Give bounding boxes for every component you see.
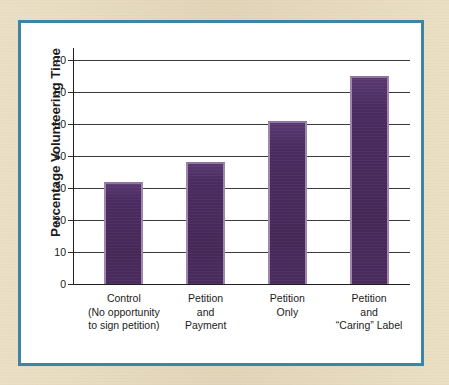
category-label-line: “Caring” Label — [328, 319, 410, 333]
x-axis-category-label: PetitionandPayment — [165, 292, 247, 333]
bar-chart: Percentage Volunteering Time 01020304050… — [21, 23, 427, 369]
category-label-line: Only — [247, 306, 329, 320]
category-label-line: and — [165, 306, 247, 320]
bar — [186, 162, 225, 284]
x-axis-category-label: PetitionOnly — [247, 292, 329, 319]
chart-frame: Percentage Volunteering Time 01020304050… — [18, 20, 424, 366]
y-axis-tick-label: 50 — [40, 119, 66, 130]
x-axis-line — [73, 284, 410, 285]
bar — [268, 121, 307, 284]
y-axis-tick-label: 40 — [40, 151, 66, 162]
x-axis-category-label: Petitionand“Caring” Label — [328, 292, 410, 333]
y-axis-tick-label: 70 — [40, 55, 66, 66]
bar — [350, 76, 389, 284]
y-axis-tick-label: 0 — [40, 279, 66, 290]
y-axis-tick-label: 60 — [40, 87, 66, 98]
gridline — [73, 60, 410, 61]
x-axis-category-label: Control(No opportunityto sign petition) — [83, 292, 165, 333]
category-label-line: Petition — [247, 292, 329, 306]
y-axis-tick-label: 20 — [40, 215, 66, 226]
category-label-line: Petition — [328, 292, 410, 306]
category-label-line: Payment — [165, 319, 247, 333]
figure-page: Percentage Volunteering Time 01020304050… — [0, 0, 449, 385]
y-axis-tick-label: 10 — [40, 247, 66, 258]
y-axis-tick-label: 30 — [40, 183, 66, 194]
category-label-line: Control — [83, 292, 165, 306]
category-label-line: to sign petition) — [83, 319, 165, 333]
y-axis-line — [73, 48, 74, 284]
category-label-line: Petition — [165, 292, 247, 306]
category-label-line: (No opportunity — [83, 306, 165, 320]
bar — [104, 182, 143, 284]
category-label-line: and — [328, 306, 410, 320]
